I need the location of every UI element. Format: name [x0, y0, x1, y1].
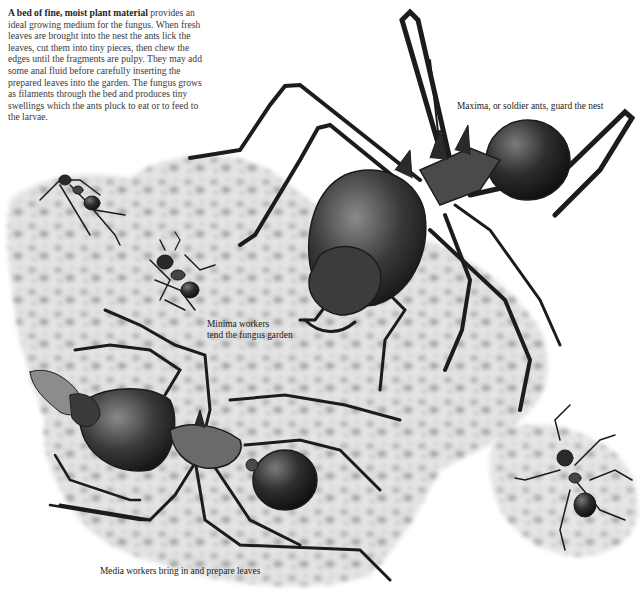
intro-body: provides an ideal growing medium for the…	[8, 7, 202, 122]
intro-lead: A bed of fine, moist plant material	[8, 7, 148, 18]
caption-minima-line1: Minima workers	[207, 319, 293, 330]
caption-minima: Minima workers tend the fungus garden	[207, 319, 293, 341]
intro-paragraph: A bed of fine, moist plant material prov…	[8, 7, 208, 123]
caption-maxima: Maxima, or soldier ants, guard the nest	[457, 101, 603, 112]
illustration-page: A bed of fine, moist plant material prov…	[0, 0, 641, 594]
caption-media: Media workers bring in and prepare leave…	[100, 566, 260, 577]
caption-minima-line2: tend the fungus garden	[207, 330, 293, 341]
